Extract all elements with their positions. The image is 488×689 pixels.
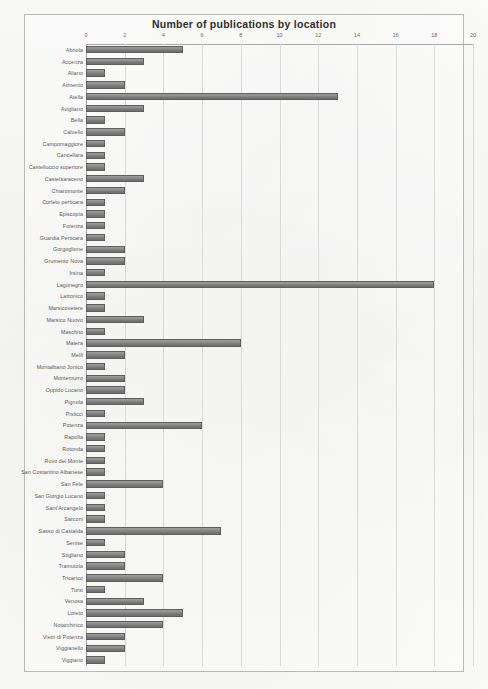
bar — [86, 257, 125, 264]
bar — [86, 140, 105, 147]
x-tick-label-20: 20 — [470, 32, 476, 38]
category-label: Potenza — [63, 422, 83, 428]
category-label: Sarconi — [64, 516, 83, 522]
category-label: Matera — [66, 340, 83, 346]
bar — [86, 269, 105, 276]
gridline-20 — [473, 44, 474, 666]
bar — [86, 105, 144, 112]
bar — [86, 328, 105, 335]
category-label: Maschito — [61, 329, 83, 335]
bar-row: Armento — [86, 79, 473, 91]
bar-row: Stigliano — [86, 549, 473, 561]
bar — [86, 339, 241, 346]
bar-row: Marsicovetere — [86, 302, 473, 314]
bar-row: Accenza — [86, 56, 473, 68]
bar — [86, 46, 183, 53]
category-label: Castelsaraceno — [45, 176, 83, 182]
category-label: Marsico Nuovo — [46, 317, 83, 323]
bar — [86, 69, 105, 76]
bar — [86, 375, 125, 382]
bar — [86, 551, 125, 558]
x-tick-label-6: 6 — [201, 32, 204, 38]
bar-row: Chiaromonte — [86, 185, 473, 197]
category-label: Forenza — [63, 223, 83, 229]
x-tick-label-4: 4 — [162, 32, 165, 38]
bar-row: Rapolla — [86, 431, 473, 443]
bar — [86, 480, 163, 487]
bar — [86, 562, 125, 569]
bar — [86, 163, 105, 170]
x-tick-label-18: 18 — [431, 32, 437, 38]
bar — [86, 351, 125, 358]
bar — [86, 457, 105, 464]
bar — [86, 609, 183, 616]
x-tick-label-14: 14 — [354, 32, 360, 38]
category-label: Corleto perticara — [42, 199, 83, 205]
bar — [86, 281, 434, 288]
bar-row: Potenza — [86, 420, 473, 432]
bar — [86, 398, 144, 405]
category-label: Senise — [66, 540, 83, 546]
category-label: Aliano — [68, 70, 83, 76]
bar — [86, 645, 125, 652]
bar — [86, 363, 105, 370]
category-label: Pignola — [65, 399, 83, 405]
bar — [86, 304, 105, 311]
bar — [86, 574, 163, 581]
bar-row: Irsina — [86, 267, 473, 279]
category-label: Viggianello — [56, 645, 83, 651]
bar-row: Episcopia — [86, 208, 473, 220]
category-label: Marsicovetere — [48, 305, 83, 311]
x-tick-label-8: 8 — [239, 32, 242, 38]
bar-row: San Costantino Albanese — [86, 466, 473, 478]
bar — [86, 222, 105, 229]
bar — [86, 621, 163, 628]
bar-row: San Fele — [86, 478, 473, 490]
bar — [86, 81, 125, 88]
category-label: Rapolla — [64, 434, 83, 440]
bar — [86, 598, 144, 605]
category-label: Loreto — [67, 610, 83, 616]
bar — [86, 433, 105, 440]
bar-row: Viggianello — [86, 643, 473, 655]
category-label: Viggiano — [62, 657, 83, 663]
x-tick-label-2: 2 — [123, 32, 126, 38]
bar — [86, 422, 202, 429]
bar-row: Sant'Arcangelo — [86, 502, 473, 514]
category-label: Montalbano Jonico — [37, 364, 83, 370]
bar-row: Notarchirico — [86, 619, 473, 631]
bar — [86, 152, 105, 159]
bar-row: Abriola — [86, 44, 473, 56]
bar-row: Oppido Lucano — [86, 384, 473, 396]
category-label: San Giorgio Lucano — [34, 493, 83, 499]
category-label: Tursi — [71, 587, 83, 593]
category-label: Bella — [71, 117, 83, 123]
bar — [86, 175, 144, 182]
bar-row: Gorgoglione — [86, 244, 473, 256]
category-label: Notarchirico — [54, 622, 83, 628]
bar — [86, 246, 125, 253]
bar-row: Marsico Nuovo — [86, 314, 473, 326]
category-label: Lagonegro — [57, 282, 83, 288]
bar-row: Campomaggiore — [86, 138, 473, 150]
category-label: Montemurro — [53, 375, 83, 381]
category-label: Irsina — [69, 270, 83, 276]
bar-row: Tricarico — [86, 572, 473, 584]
bar-row: Calvello — [86, 126, 473, 138]
bar-row: Bella — [86, 114, 473, 126]
category-label: Episcopia — [59, 211, 83, 217]
bar — [86, 116, 105, 123]
category-label: Guardia Perticara — [40, 235, 83, 241]
x-tick-label-16: 16 — [393, 32, 399, 38]
category-label: Venosa — [65, 598, 83, 604]
bar-row: Montemurro — [86, 373, 473, 385]
bar-row: Sasso di Castalda — [86, 525, 473, 537]
bar — [86, 128, 125, 135]
category-label: Tricarico — [62, 575, 83, 581]
bar-row: Loreto — [86, 607, 473, 619]
category-label: Rotonda — [62, 446, 83, 452]
category-label: Stigliano — [62, 552, 83, 558]
category-label: Grumento Nova — [44, 258, 83, 264]
bar-row: Avigliano — [86, 103, 473, 115]
bar — [86, 199, 105, 206]
